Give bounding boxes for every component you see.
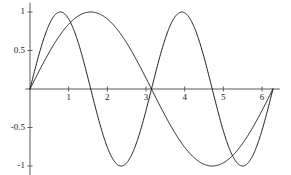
x-tick-label-4: 4 bbox=[173, 93, 197, 102]
x-tick-label-6: 6 bbox=[250, 93, 274, 102]
plot-figure: 123456 10.5-0.5-1 bbox=[0, 0, 291, 175]
y-tick-label-1: 1 bbox=[0, 7, 25, 16]
axes-group bbox=[25, 3, 279, 175]
plot-canvas bbox=[0, 0, 291, 175]
x-tick-label-3: 3 bbox=[134, 93, 158, 102]
x-tick-label-5: 5 bbox=[211, 93, 235, 102]
y-tick-label-neg1: -1 bbox=[0, 161, 25, 170]
x-tick-label-1: 1 bbox=[57, 93, 81, 102]
y-tick-label-neg0-5: -0.5 bbox=[0, 123, 25, 132]
y-tick-label-0neg5: 0.5 bbox=[0, 46, 25, 55]
x-tick-label-2: 2 bbox=[95, 93, 119, 102]
